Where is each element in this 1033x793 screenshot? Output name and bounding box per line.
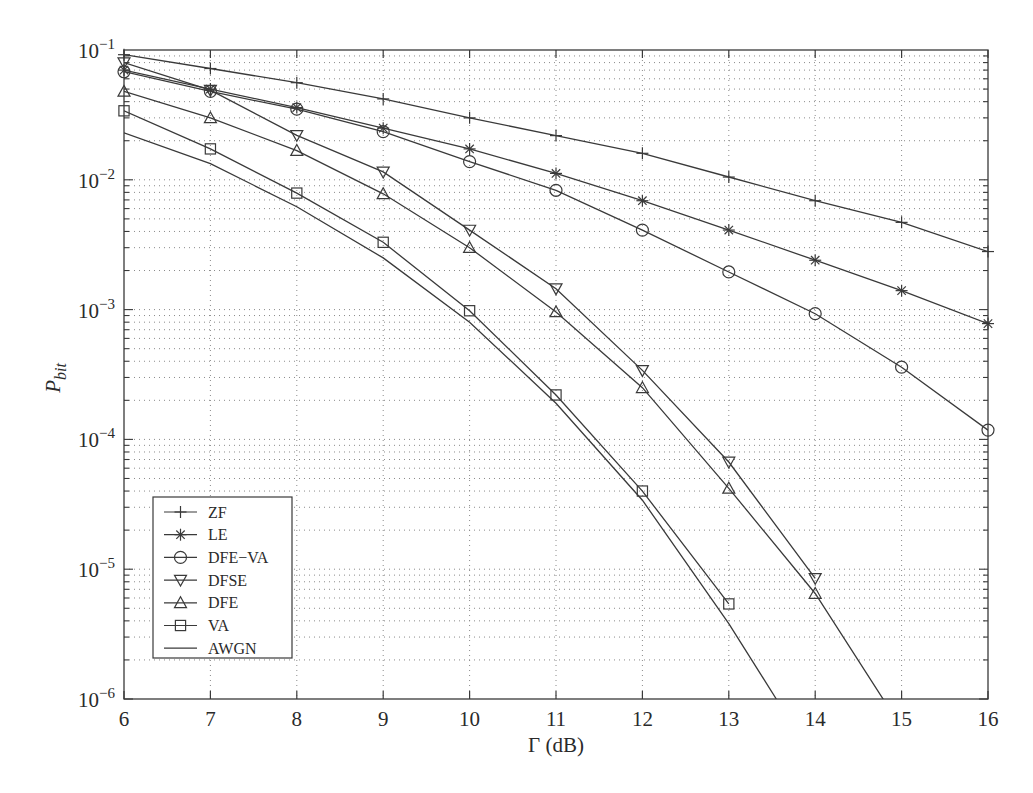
legend-label: DFE−VA bbox=[208, 549, 269, 566]
plus-marker-icon bbox=[809, 195, 821, 207]
legend-label: DFE bbox=[208, 594, 238, 611]
plus-marker-icon bbox=[723, 171, 735, 183]
y-tick-label: 10−1 bbox=[78, 36, 115, 63]
star-marker-icon bbox=[175, 529, 187, 541]
x-tick-label: 15 bbox=[891, 707, 912, 731]
plus-marker-icon bbox=[377, 93, 389, 105]
series-line bbox=[124, 55, 988, 252]
svg-text:Pbit: Pbit bbox=[41, 363, 69, 394]
y-tick-label: 10−6 bbox=[78, 685, 115, 712]
y-tick-label: 10−2 bbox=[78, 166, 115, 193]
legend-label: LE bbox=[208, 526, 228, 543]
legend-item: DFE−VA bbox=[164, 549, 269, 566]
plus-marker-icon bbox=[636, 147, 648, 159]
legend-label: DFSE bbox=[208, 572, 247, 589]
x-tick-labels: 678910111213141516 bbox=[119, 707, 999, 731]
y-tick-labels: 10−110−210−310−410−510−6 bbox=[78, 36, 115, 712]
star-marker-icon bbox=[464, 143, 476, 155]
star-marker-icon bbox=[896, 285, 908, 297]
legend-label: ZF bbox=[208, 504, 227, 521]
legend-label: VA bbox=[208, 617, 229, 634]
x-axis-title: Γ (dB) bbox=[528, 733, 584, 757]
y-tick-label: 10−4 bbox=[78, 425, 115, 452]
plus-marker-icon bbox=[550, 130, 562, 142]
x-tick-label: 7 bbox=[205, 707, 216, 731]
star-marker-icon bbox=[723, 224, 735, 236]
y-axis-title: Pbit bbox=[41, 363, 69, 394]
x-tick-label: 13 bbox=[718, 707, 739, 731]
star-marker-icon bbox=[636, 195, 648, 207]
plus-marker-icon bbox=[464, 112, 476, 124]
ber-chart: 678910111213141516 10−110−210−310−410−51… bbox=[0, 0, 1033, 793]
plus-marker-icon bbox=[204, 63, 216, 75]
x-tick-label: 14 bbox=[805, 707, 827, 731]
x-tick-label: 8 bbox=[292, 707, 303, 731]
y-axis-title-sub: bit bbox=[52, 363, 69, 380]
plus-marker-icon bbox=[291, 77, 303, 89]
x-tick-label: 6 bbox=[119, 707, 130, 731]
y-tick-label: 10−5 bbox=[78, 555, 115, 582]
star-marker-icon bbox=[550, 167, 562, 179]
plus-marker-icon bbox=[896, 216, 908, 228]
y-axis-title-main: P bbox=[41, 380, 65, 394]
x-tick-label: 12 bbox=[632, 707, 653, 731]
y-tick-label: 10−3 bbox=[78, 296, 115, 323]
x-tick-label: 10 bbox=[459, 707, 480, 731]
legend: ZFLEDFE−VADFSEDFEVAAWGN bbox=[153, 497, 292, 658]
legend-label: AWGN bbox=[208, 640, 257, 657]
x-tick-label: 9 bbox=[378, 707, 389, 731]
x-tick-label: 16 bbox=[978, 707, 999, 731]
x-tick-label: 11 bbox=[546, 707, 566, 731]
star-marker-icon bbox=[809, 254, 821, 266]
